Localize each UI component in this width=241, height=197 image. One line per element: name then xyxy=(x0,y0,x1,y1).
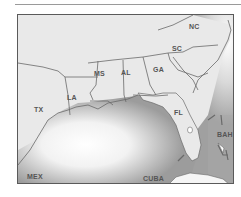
label-al: AL xyxy=(121,69,131,76)
label-bah: BAH xyxy=(217,131,233,138)
map-frame: NC SC GA AL MS LA TX FL BAH MEX CUBA xyxy=(17,14,234,184)
label-ms: MS xyxy=(94,70,105,77)
label-la: LA xyxy=(67,94,77,101)
label-nc: NC xyxy=(189,23,200,30)
label-ga: GA xyxy=(153,66,164,73)
label-tx: TX xyxy=(34,106,43,113)
label-sc: SC xyxy=(172,45,182,52)
lake-okeechobee xyxy=(188,127,193,133)
label-mex: MEX xyxy=(27,173,43,180)
top-rule-divider xyxy=(15,4,241,5)
map-graphic xyxy=(18,15,234,184)
label-cuba: CUBA xyxy=(143,175,164,182)
label-fl: FL xyxy=(174,109,183,116)
